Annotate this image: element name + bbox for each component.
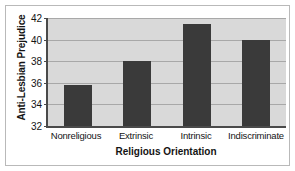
y-axis-tick-mark	[44, 126, 48, 127]
x-axis-tick-label: Nonreligious	[46, 130, 106, 141]
bar	[242, 40, 270, 126]
x-axis-tick-label: Extrinsic	[106, 130, 166, 141]
y-axis-tick-label: 36	[31, 77, 42, 88]
bar-slot	[108, 18, 168, 126]
figure-frame: Anti-Lesbian Prejudice 323436384042 Nonr…	[5, 5, 290, 166]
x-axis-title: Religious Orientation	[46, 146, 286, 157]
y-axis-tick-label: 34	[31, 99, 42, 110]
bar	[123, 61, 151, 126]
x-axis-tick-label: Intrinsic	[166, 130, 226, 141]
plot-area: 323436384042	[46, 18, 286, 128]
y-axis-tick-label: 42	[31, 13, 42, 24]
bar	[183, 24, 211, 126]
bar	[64, 85, 92, 126]
x-axis-tick-labels: NonreligiousExtrinsicIntrinsicIndiscrimi…	[46, 130, 286, 141]
x-axis-tick-label: Indiscriminate	[226, 130, 286, 141]
bar-slot	[227, 18, 287, 126]
bar-series	[48, 18, 286, 126]
bar-slot	[167, 18, 227, 126]
bar-chart-figure: Anti-Lesbian Prejudice 323436384042 Nonr…	[0, 0, 295, 171]
y-axis-tick-label: 32	[31, 121, 42, 132]
y-axis-tick-label: 38	[31, 56, 42, 67]
y-axis-title: Anti-Lesbian Prejudice	[16, 10, 27, 126]
bar-slot	[48, 18, 108, 126]
y-axis-tick-label: 40	[31, 34, 42, 45]
